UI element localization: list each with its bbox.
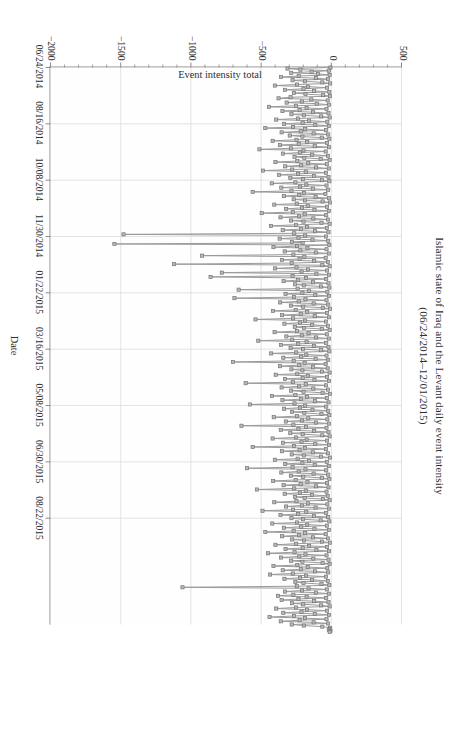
data-point-marker (325, 86, 328, 89)
data-point-marker (320, 391, 323, 394)
data-point-marker (323, 192, 326, 195)
data-point-marker (267, 105, 270, 108)
data-point-marker (327, 549, 330, 552)
data-point-marker (324, 319, 327, 322)
data-point-marker (294, 478, 297, 481)
data-point-marker (289, 367, 292, 370)
data-point-marker (278, 237, 281, 240)
data-point-marker (326, 409, 329, 412)
data-point-marker (319, 412, 322, 415)
data-point-marker (311, 557, 314, 560)
data-point-marker (312, 527, 315, 530)
data-point-marker (292, 529, 295, 532)
data-point-marker (281, 228, 284, 231)
data-point-marker (320, 178, 323, 181)
data-point-marker (303, 467, 306, 470)
data-point-marker (326, 515, 329, 518)
data-point-marker (306, 161, 309, 164)
data-point-marker (283, 377, 286, 380)
data-point-marker (327, 243, 330, 246)
data-point-marker (315, 102, 318, 105)
data-point-marker (304, 106, 307, 109)
data-point-marker (312, 344, 315, 347)
data-point-marker (283, 462, 286, 465)
data-point-marker (325, 502, 328, 505)
chart-title-line-2: (06/24/2014–12/01/2015) (415, 0, 431, 731)
data-point-marker (172, 262, 175, 265)
data-point-marker (281, 611, 284, 614)
data-point-marker (291, 508, 294, 511)
data-point-marker (300, 291, 303, 294)
data-point-marker (295, 520, 298, 523)
data-point-marker (237, 288, 240, 291)
data-point-marker (283, 88, 286, 91)
data-point-marker (296, 172, 299, 175)
data-point-marker (320, 199, 323, 202)
data-point-marker (328, 392, 331, 395)
data-point-marker (285, 100, 288, 103)
data-point-marker (295, 329, 298, 332)
data-point-marker (302, 255, 305, 258)
data-point-marker (328, 604, 331, 607)
data-point-marker (283, 492, 286, 495)
data-point-marker (281, 441, 284, 444)
data-point-marker (326, 600, 329, 603)
data-point-marker (301, 475, 304, 478)
data-point-marker (319, 221, 322, 224)
data-point-marker (297, 554, 300, 557)
data-point-marker (326, 473, 329, 476)
data-point-marker (208, 275, 211, 278)
data-point-marker (327, 69, 330, 72)
data-point-marker (325, 396, 328, 399)
data-point-marker (327, 273, 330, 276)
data-point-marker (327, 196, 330, 199)
data-point-marker (298, 184, 301, 187)
data-point-marker (320, 263, 323, 266)
data-point-marker (328, 264, 331, 267)
data-point-marker (301, 602, 304, 605)
data-point-marker (313, 293, 316, 296)
data-point-marker (328, 434, 331, 437)
data-point-marker (319, 348, 322, 351)
data-point-marker (327, 145, 330, 148)
data-point-marker (319, 114, 322, 117)
data-point-marker (328, 307, 331, 310)
data-point-marker (294, 435, 297, 438)
data-point-marker (307, 289, 310, 292)
data-point-marker (324, 532, 327, 535)
data-point-marker (301, 121, 304, 124)
data-point-marker (326, 345, 329, 348)
data-point-marker (245, 466, 248, 469)
data-point-marker (326, 358, 329, 361)
grid-layer (50, 67, 401, 624)
data-point-marker (282, 526, 285, 529)
data-point-marker (303, 127, 306, 130)
data-point-marker (290, 240, 293, 243)
data-point-marker (291, 571, 294, 574)
data-point-marker (263, 530, 266, 533)
data-point-marker (301, 376, 304, 379)
data-point-marker (324, 247, 327, 250)
data-point-marker (291, 423, 294, 426)
data-point-marker (312, 620, 315, 623)
data-point-marker (291, 380, 294, 383)
data-point-marker (289, 559, 292, 562)
data-point-marker (326, 260, 329, 263)
data-point-marker (280, 130, 283, 133)
data-point-marker (260, 509, 263, 512)
data-point-marker (324, 183, 327, 186)
data-point-marker (289, 189, 292, 192)
data-point-marker (271, 436, 274, 439)
data-point-marker (326, 230, 329, 233)
data-point-marker (324, 107, 327, 110)
data-point-marker (311, 280, 314, 283)
data-point-marker (303, 496, 306, 499)
data-point-marker (301, 390, 304, 393)
data-point-marker (312, 131, 315, 134)
data-point-marker (324, 383, 327, 386)
data-point-marker (283, 164, 286, 167)
data-point-marker (284, 504, 287, 507)
y-tick-label: 500 (397, 0, 408, 60)
data-point-marker (292, 401, 295, 404)
data-point-marker (324, 234, 327, 237)
